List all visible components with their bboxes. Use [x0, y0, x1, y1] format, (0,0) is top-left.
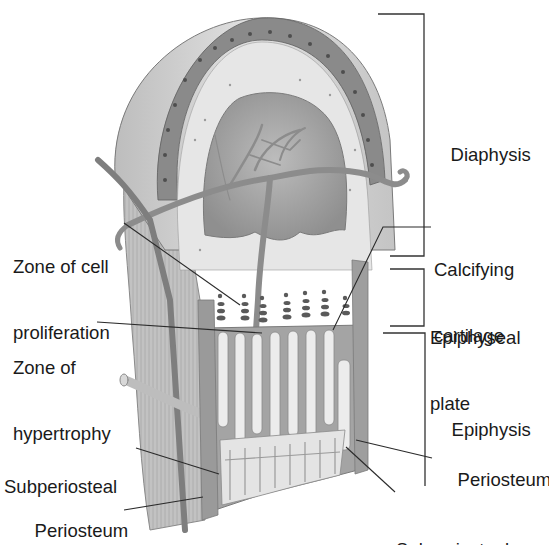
bracket-epiphysis: [383, 333, 425, 486]
label-subperiosteal-bone-collar-right: Subperiosteal bone collar: [396, 495, 509, 545]
bone-growth-diagram: Diaphysis Calcifying cartilage Epiphysea…: [0, 0, 549, 545]
label-diaphysis: Diaphysis: [430, 122, 531, 188]
label-periosteum-left: Periosteum: [14, 498, 128, 545]
bracket-epiphyseal-plate: [390, 269, 424, 326]
chondrocyte-columns: [217, 290, 351, 323]
lower-shaft: [198, 260, 368, 520]
